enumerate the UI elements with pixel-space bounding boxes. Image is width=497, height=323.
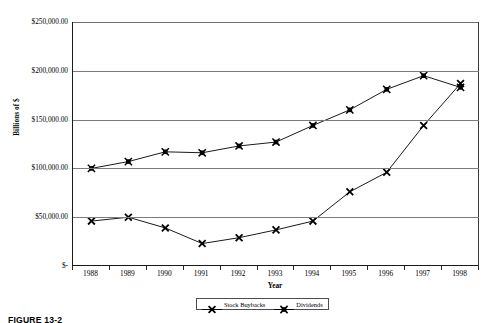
legend-label: Stock Buybacks — [224, 301, 265, 308]
data-point-marker — [420, 122, 427, 129]
x-axis-tick-label: 1995 — [329, 269, 369, 278]
x-axis-tick-label: 1998 — [440, 269, 480, 278]
y-axis-tick-label: $150,000.00 — [12, 116, 68, 124]
data-point-marker-cross — [346, 106, 353, 113]
y-axis-tick-labels: $-$50,000.00$100,000.00$150,000.00$200,0… — [10, 0, 68, 323]
x-axis-tick-label: 1990 — [144, 269, 184, 278]
x-axis-tick-label: 1989 — [107, 269, 147, 278]
legend-entry[interactable]: Dividends — [274, 300, 322, 309]
legend-entry[interactable]: Stock Buybacks — [202, 300, 265, 309]
x-axis-title: Year — [72, 281, 478, 290]
legend-cross-marker-icon — [202, 300, 222, 309]
x-axis-tick-label: 1991 — [181, 269, 221, 278]
data-point-marker-cross — [457, 84, 464, 91]
x-axis-tick-label: 1992 — [218, 269, 258, 278]
gridline — [73, 217, 479, 218]
figure-container: Billions of $ $-$50,000.00$100,000.00$15… — [0, 0, 497, 323]
series-line — [91, 83, 460, 243]
data-point-marker-cross — [309, 122, 316, 129]
data-point-marker — [346, 188, 353, 195]
data-point-marker-cross — [420, 72, 427, 79]
legend-label: Dividends — [296, 301, 322, 308]
legend-square-marker-icon — [274, 300, 294, 309]
data-point-marker — [162, 225, 169, 232]
x-axis-tick-label: 1994 — [292, 269, 332, 278]
gridline — [73, 71, 479, 72]
data-point-marker-cross — [125, 158, 132, 165]
x-axis-tick-label: 1996 — [366, 269, 406, 278]
chart-legend: Stock BuybacksDividends — [196, 298, 329, 310]
data-point-marker-cross — [383, 86, 390, 93]
y-axis-tick-label: $- — [12, 262, 68, 270]
data-point-marker — [383, 169, 390, 176]
x-axis-tick-label: 1988 — [70, 269, 110, 278]
plot-area — [72, 22, 478, 266]
y-axis-tick-label: $100,000.00 — [12, 164, 68, 172]
data-point-marker — [310, 218, 317, 225]
series-line — [91, 76, 460, 169]
y-axis-tick-label: $250,000.00 — [12, 18, 68, 26]
x-axis-tick-label: 1993 — [255, 269, 295, 278]
y-axis-tick-label: $50,000.00 — [12, 213, 68, 221]
x-axis-tick-label: 1997 — [403, 269, 443, 278]
gridline — [73, 120, 479, 121]
series-overlay — [73, 22, 479, 266]
data-point-marker — [273, 226, 280, 233]
gridline — [73, 168, 479, 169]
figure-caption: FIGURE 13-2 — [8, 315, 62, 323]
y-axis-tick-label: $200,000.00 — [12, 67, 68, 75]
